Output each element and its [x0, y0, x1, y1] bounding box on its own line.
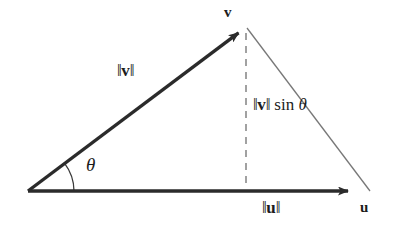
- norm-letter-v: v: [121, 61, 130, 80]
- diagram-canvas: [0, 0, 398, 247]
- height-sin-function: sin: [270, 95, 298, 114]
- vector-diagram: v u ‖v‖ ‖u‖ ‖v‖ sin θ θ: [0, 0, 398, 247]
- height-theta-symbol: θ: [298, 95, 306, 114]
- norm-bar-close-v: ‖: [130, 61, 134, 80]
- label-vector-v: v: [224, 5, 232, 20]
- label-height-expression: ‖v‖ sin θ: [253, 96, 307, 113]
- label-magnitude-v: ‖v‖: [117, 62, 134, 79]
- height-letter-v: v: [257, 95, 266, 114]
- norm-bar-close-u: ‖: [276, 198, 280, 217]
- label-angle-theta: θ: [86, 155, 95, 174]
- vector-v-arrow: [28, 33, 239, 191]
- norm-letter-u: u: [266, 198, 275, 217]
- label-vector-u: u: [360, 200, 368, 215]
- angle-arc: [65, 163, 74, 191]
- label-magnitude-u: ‖u‖: [262, 199, 280, 216]
